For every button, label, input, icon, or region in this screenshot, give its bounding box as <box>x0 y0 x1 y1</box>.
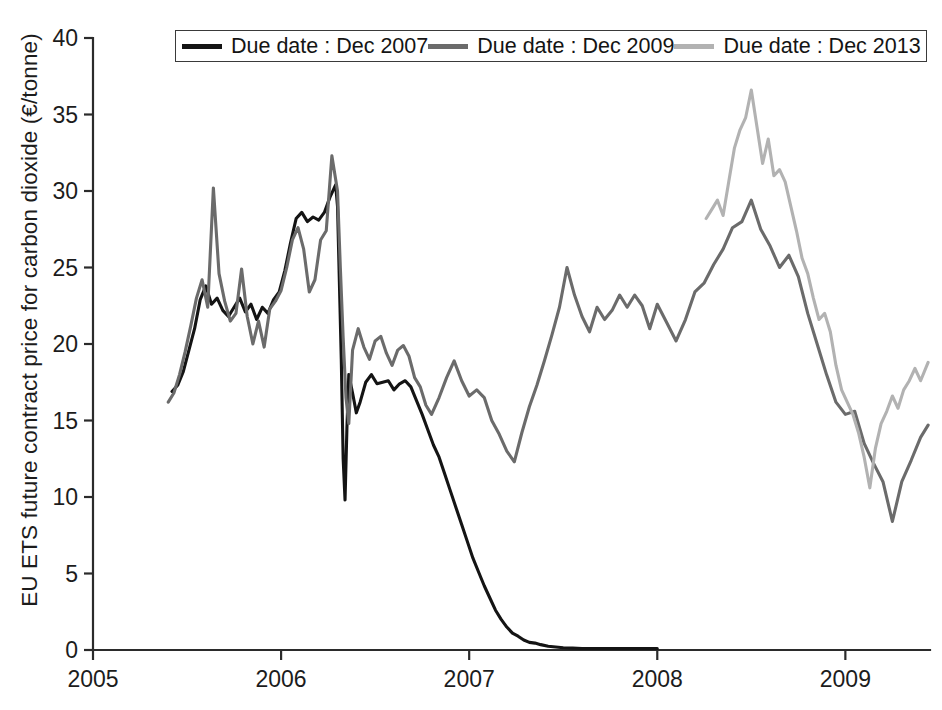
legend-label-dec-2009: Due date : Dec 2009 <box>477 34 674 59</box>
x-tick-label: 2006 <box>256 666 307 692</box>
y-tick-label: 20 <box>52 331 78 357</box>
x-tick-label: 2007 <box>444 666 495 692</box>
legend-swatch-dec-2013 <box>674 44 714 49</box>
y-tick-label: 25 <box>52 255 78 281</box>
y-tick-label: 15 <box>52 408 78 434</box>
y-tick-label: 0 <box>65 637 78 663</box>
x-tick-label: 2008 <box>632 666 683 692</box>
y-tick-label: 30 <box>52 178 78 204</box>
x-tick-label: 2005 <box>67 666 118 692</box>
legend-item-dec-2007[interactable]: Due date : Dec 2007 <box>182 34 428 59</box>
y-tick-label: 40 <box>52 25 78 51</box>
legend-swatch-dec-2007 <box>182 44 222 49</box>
x-tick-label: 2009 <box>820 666 871 692</box>
chart-plot-area: 051015202530354020052006200720082009 <box>0 0 942 710</box>
y-tick-label: 10 <box>52 484 78 510</box>
chart-figure: 051015202530354020052006200720082009 EU … <box>0 0 942 710</box>
legend-item-dec-2009[interactable]: Due date : Dec 2009 <box>428 34 674 59</box>
chart-legend: Due date : Dec 2007 Due date : Dec 2009 … <box>175 30 927 62</box>
legend-swatch-dec-2009 <box>428 44 468 49</box>
series-line-0 <box>172 185 657 649</box>
legend-item-dec-2013[interactable]: Due date : Dec 2013 <box>674 34 920 59</box>
legend-label-dec-2007: Due date : Dec 2007 <box>231 34 428 59</box>
series-line-2 <box>706 90 928 488</box>
legend-label-dec-2013: Due date : Dec 2013 <box>723 34 920 59</box>
y-tick-label: 35 <box>52 102 78 128</box>
series-line-1 <box>168 156 928 522</box>
y-tick-label: 5 <box>65 561 78 587</box>
